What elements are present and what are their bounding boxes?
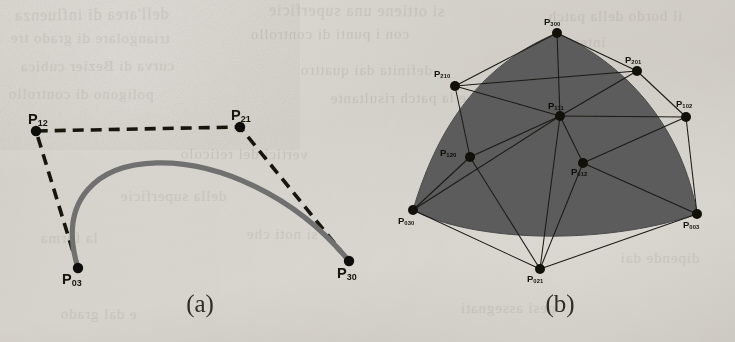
control-point-p300 — [552, 28, 562, 38]
point-label-p102: P102 — [676, 99, 693, 110]
point-label-p120: P120 — [440, 148, 457, 159]
label-subscript: 102 — [682, 103, 692, 109]
label-subscript: 300 — [550, 21, 560, 27]
figure-page: dell'area di influenzasi ottiene una sup… — [0, 0, 735, 342]
label-subscript: 03 — [72, 278, 82, 288]
point-label-p030: P030 — [398, 216, 415, 227]
point-label-p003: P003 — [683, 220, 700, 231]
label-base: P — [28, 111, 38, 127]
point-label-p210: P210 — [434, 69, 451, 80]
label-subscript: 012 — [577, 171, 587, 177]
point-label-p021: P021 — [527, 274, 544, 285]
caption-b: (b) — [520, 290, 600, 318]
control-point-p021 — [535, 264, 545, 274]
label-subscript: 12 — [38, 118, 48, 128]
label-subscript: 201 — [631, 59, 641, 65]
control-point-p120 — [465, 152, 475, 162]
control-point-p030 — [408, 205, 418, 215]
point-label-p201: P201 — [625, 55, 642, 66]
label-subscript: 003 — [689, 224, 699, 230]
label-subscript: 21 — [241, 114, 251, 124]
bezier-curve-a — [72, 163, 349, 268]
control-point-p201 — [632, 66, 642, 76]
figure-vector-layer — [0, 0, 735, 342]
figure-svg — [0, 0, 735, 342]
label-subscript: 210 — [440, 73, 450, 79]
point-label-p30: P30 — [337, 266, 357, 282]
label-subscript: 030 — [404, 220, 414, 226]
point-label-p300: P300 — [544, 17, 561, 28]
label-subscript: 111 — [554, 105, 564, 111]
caption-a: (a) — [160, 290, 240, 318]
label-subscript: 120 — [446, 152, 456, 158]
control-point-p102 — [681, 112, 691, 122]
label-base: P — [231, 107, 241, 123]
label-base: P — [62, 271, 72, 287]
label-base: P — [337, 265, 347, 281]
point-label-p03: P03 — [62, 272, 82, 288]
point-label-p21: P21 — [231, 108, 251, 124]
point-label-p111: P111 — [548, 101, 564, 112]
control-point-p003 — [692, 209, 702, 219]
control-point-p111 — [555, 111, 565, 121]
label-subscript: 021 — [533, 278, 543, 284]
panel-a-graphic — [31, 122, 354, 273]
point-label-p12: P12 — [28, 112, 48, 128]
control-point-p210 — [450, 81, 460, 91]
bezier-patch-surface — [413, 33, 697, 236]
point-label-p012: P012 — [571, 167, 588, 178]
label-subscript: 30 — [347, 272, 357, 282]
